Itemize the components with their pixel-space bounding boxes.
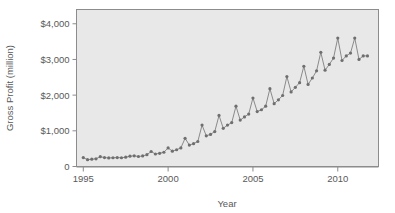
data-point-marker [171,150,174,153]
data-point-marker [366,54,369,57]
data-point-marker [107,156,110,159]
data-point-marker [213,130,216,133]
data-point-marker [273,102,276,105]
data-point-marker [306,83,309,86]
x-axis-ticks: 1995200020052010 [73,167,379,184]
data-point-marker [298,81,301,84]
data-point-marker [183,137,186,140]
data-point-marker [141,154,144,157]
data-point-marker [162,151,165,154]
data-point-marker [353,36,356,39]
data-point-marker [90,158,93,161]
data-point-marker [200,124,203,127]
data-point-marker [302,65,305,68]
data-point-marker [167,146,170,149]
data-point-marker [230,121,233,124]
data-point-marker [209,133,212,136]
data-point-marker [179,146,182,149]
y-tick-label: $3,000 [40,54,69,65]
data-point-marker [222,127,225,130]
data-point-marker [150,150,153,153]
data-point-marker [239,119,242,122]
data-point-marker [336,36,339,39]
data-point-marker [175,148,178,151]
data-point-marker [145,153,148,156]
y-tick-label: $1,000 [40,125,69,136]
data-point-marker [290,90,293,93]
data-point-marker [99,155,102,158]
data-point-marker [345,54,348,57]
y-tick-label: $4,000 [40,18,69,29]
data-point-marker [256,110,259,113]
data-point-marker [281,94,284,97]
data-point-marker [260,108,263,111]
y-axis-ticks: 0$1,000$2,000$3,000$4,000 [40,18,76,172]
x-axis-title: Year [217,198,236,209]
data-point-marker [128,155,131,158]
data-point-marker [226,124,229,127]
data-point-marker [268,87,271,90]
plot-panel [77,10,379,167]
gross-profit-line-chart: 0$1,000$2,000$3,000$4,000 19952000200520… [0,0,395,213]
data-point-marker [137,155,140,158]
data-point-marker [294,86,297,89]
y-axis-title: Gross Profit (million) [4,45,15,131]
data-point-marker [234,105,237,108]
data-point-marker [111,156,114,159]
data-point-marker [86,158,89,161]
data-point-marker [349,51,352,54]
data-point-marker [116,156,119,159]
data-point-marker [332,56,335,59]
data-point-marker [277,98,280,101]
data-point-marker [94,157,97,160]
data-point-marker [124,156,127,159]
data-point-marker [243,115,246,118]
data-point-marker [319,51,322,54]
data-point-marker [192,142,195,145]
data-point-marker [315,69,318,72]
data-point-marker [247,112,250,115]
data-point-marker [264,105,267,108]
data-point-marker [158,152,161,155]
data-point-marker [362,54,365,57]
data-point-marker [328,63,331,66]
data-point-marker [311,76,314,79]
x-tick-label: 1995 [73,173,94,184]
data-point-marker [357,58,360,61]
x-tick-label: 2010 [327,173,348,184]
data-point-marker [82,156,85,159]
data-point-marker [188,143,191,146]
data-point-marker [133,154,136,157]
data-point-marker [205,134,208,137]
x-tick-label: 2000 [158,173,179,184]
chart-svg: 0$1,000$2,000$3,000$4,000 19952000200520… [0,0,395,213]
y-tick-label: $2,000 [40,90,69,101]
data-point-marker [196,140,199,143]
data-point-marker [251,96,254,99]
data-point-marker [103,156,106,159]
y-tick-label: 0 [64,161,69,172]
data-point-marker [217,114,220,117]
data-point-marker [120,156,123,159]
data-point-marker [323,69,326,72]
data-point-marker [285,75,288,78]
data-point-marker [154,152,157,155]
x-tick-label: 2005 [242,173,263,184]
data-point-marker [340,59,343,62]
